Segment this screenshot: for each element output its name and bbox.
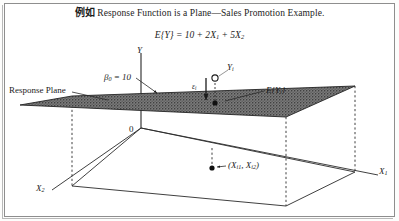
response-plane xyxy=(20,86,355,117)
axis-y-label: Y xyxy=(137,46,142,55)
figure-title: 例如 Response Function is a Plane—Sales Pr… xyxy=(0,8,399,19)
equation-x1: X1 xyxy=(210,30,219,40)
predictor-point xyxy=(209,148,226,171)
figure-container: 例如 Response Function is a Plane—Sales Pr… xyxy=(0,0,399,221)
predictor-coordinates-label: (Xi1, Xi2) xyxy=(228,161,259,171)
expected-value-label: E{Yi} xyxy=(266,86,285,96)
response-function-equation: E{Y} = 10 + 2X1 + 5X2 xyxy=(0,31,399,41)
axis-x1 xyxy=(141,128,378,175)
axis-x2-label: X2 xyxy=(36,184,45,194)
equation-brace: } = 10 + 2 xyxy=(170,30,210,40)
figure-title-text: Response Function is a Plane—Sales Promo… xyxy=(97,8,324,18)
observed-point-yi xyxy=(212,70,228,81)
beta0-label: β0 = 10 xyxy=(104,73,131,83)
beta0-value: = 10 xyxy=(112,72,132,82)
observed-value-label: Yi xyxy=(227,63,234,73)
axis-x2 xyxy=(52,128,141,190)
axis-x1-label: X1 xyxy=(379,167,388,177)
axis-x2-subscript: 2 xyxy=(42,187,45,193)
equation-e: E{ xyxy=(155,30,165,40)
eyi-prefix: E{Y xyxy=(266,85,280,95)
response-plane-label: Response Plane xyxy=(9,86,66,95)
xi-mid: , X xyxy=(241,160,251,170)
equation-x2-sub: 2 xyxy=(241,33,244,40)
figure-title-cjk: 例如 xyxy=(75,7,95,18)
origin-label: 0 xyxy=(129,125,134,134)
error-term-label: εi xyxy=(192,83,196,91)
axis-x1-subscript: 1 xyxy=(385,170,388,176)
epsilon-subscript: i xyxy=(195,85,196,91)
equation-x2: X2 xyxy=(235,30,244,40)
equation-plus: + 5 xyxy=(219,30,235,40)
xi-close: ) xyxy=(256,160,259,170)
xi-open: (X xyxy=(228,160,237,170)
eyi-close: } xyxy=(282,85,286,95)
yi-subscript: i xyxy=(232,66,234,72)
beta0-leader-line xyxy=(136,78,157,93)
